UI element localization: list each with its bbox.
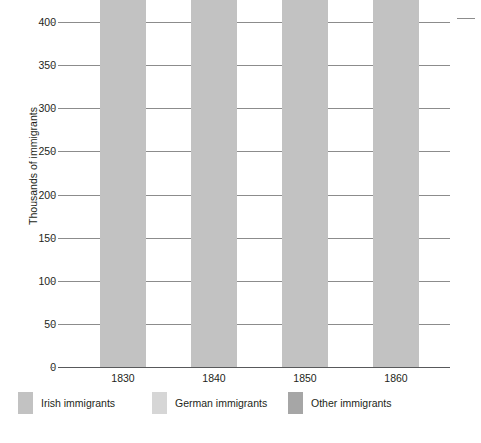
bar-1850 (282, 0, 328, 367)
legend-item-german: German immigrants (152, 392, 267, 414)
chart-legend: Irish immigrants German immigrants Other… (0, 392, 481, 420)
y-axis-tick-mark (50, 108, 56, 109)
legend-label-other: Other immigrants (311, 397, 392, 409)
bar-1840 (191, 0, 237, 367)
legend-swatch-other (288, 392, 303, 414)
x-axis-tick-label-1840: 1840 (169, 372, 259, 384)
x-axis-tick-label-1860: 1860 (351, 372, 441, 384)
legend-swatch-german (152, 392, 167, 414)
bar-1830 (100, 0, 146, 367)
y-axis-tick-mark (50, 22, 56, 23)
y-axis-tick-mark (50, 151, 56, 152)
legend-label-irish: Irish immigrants (41, 397, 115, 409)
y-axis-tick-mark (50, 65, 56, 66)
y-axis-tick-mark (50, 238, 56, 239)
legend-swatch-irish (18, 392, 33, 414)
bar-segment-irish (100, 0, 146, 367)
bar-1860 (373, 0, 419, 367)
legend-label-german: German immigrants (175, 397, 267, 409)
x-axis-tick-label-1850: 1850 (260, 372, 350, 384)
bar-segment-irish (191, 0, 237, 367)
bar-segment-irish (373, 0, 419, 367)
immigration-stacked-bar-chart: Thousands of immigrants 0501001502002503… (0, 0, 481, 443)
y-axis-tick-mark (50, 324, 56, 325)
legend-item-other: Other immigrants (288, 392, 392, 414)
plot-area: 0501001502002503003504001830184018501860… (58, 22, 450, 367)
y-axis-tick-mark (50, 281, 56, 282)
bar-segment-irish (282, 0, 328, 367)
legend-item-irish: Irish immigrants (18, 392, 115, 414)
y-axis-tick-mark (50, 195, 56, 196)
cropped-rule-decoration (457, 18, 475, 19)
y-axis-tick-mark (50, 367, 56, 368)
x-axis-tick-label-1830: 1830 (78, 372, 168, 384)
